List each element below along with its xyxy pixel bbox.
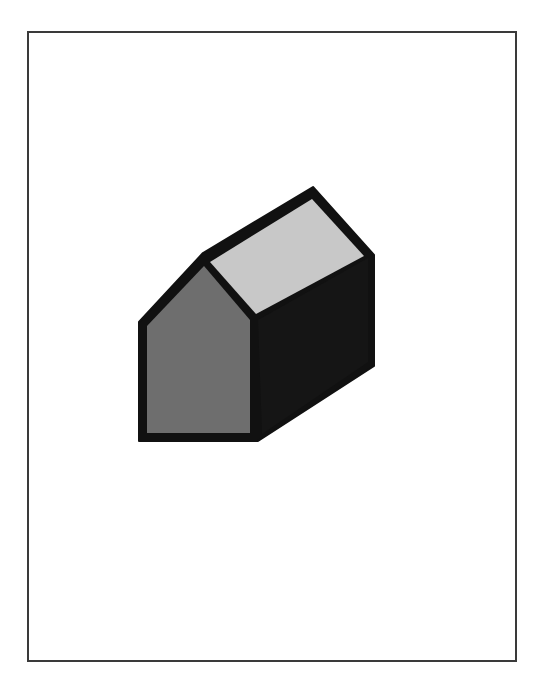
house-prism-figure — [0, 0, 550, 697]
